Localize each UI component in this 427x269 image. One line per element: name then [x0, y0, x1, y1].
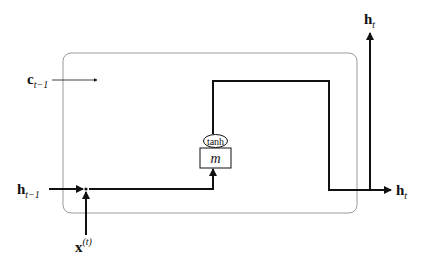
- cell-state-label: ct−1: [27, 71, 48, 90]
- hidden-out-top-label: ht: [364, 11, 375, 30]
- combined-path: [89, 169, 213, 189]
- hidden-in-label: ht−1: [17, 181, 40, 200]
- hidden-out-right-label: ht: [396, 182, 407, 201]
- tanh-label: tanh: [207, 136, 224, 147]
- output-path: [213, 81, 391, 190]
- memory-block-label: m: [210, 151, 220, 166]
- rnn-cell-diagram: ct−1 ht−1 x(t) m tanh ht ht: [0, 0, 427, 269]
- input-label: x(t): [75, 236, 93, 255]
- junction-dot: [84, 187, 87, 190]
